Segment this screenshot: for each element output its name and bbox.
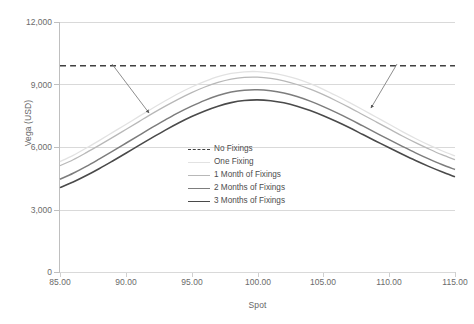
x-axis-title: Spot — [60, 300, 455, 310]
y-tick-label: 3,000 — [6, 205, 52, 215]
legend-swatch-dashed-icon — [188, 144, 210, 154]
legend-swatch-line-icon — [188, 183, 210, 193]
legend-item-1-month[interactable]: 1 Month of Fixings — [188, 168, 318, 181]
gridline — [60, 272, 455, 273]
legend-item-no-fixings[interactable]: No Fixings — [188, 142, 318, 155]
x-tick-label: 95.00 — [162, 277, 222, 287]
y-tick-label: 0 — [6, 267, 52, 277]
x-tick-label: 115.00 — [425, 277, 474, 287]
x-tick-label: 110.00 — [359, 277, 419, 287]
legend-label: One Fixing — [214, 156, 254, 167]
legend-item-2-months[interactable]: 2 Months of Fixings — [188, 181, 318, 194]
legend-label: 1 Month of Fixings — [214, 169, 281, 180]
legend-label: 2 Months of Fixings — [214, 182, 285, 193]
legend-swatch-line-icon — [188, 196, 210, 206]
y-axis-title: Vega (USD) — [23, 53, 33, 193]
vega-spot-chart: 12,000 9,000 6,000 3,000 0 Vega (USD) Sp… — [0, 0, 474, 324]
legend-item-one-fixing[interactable]: One Fixing — [188, 155, 318, 168]
legend-swatch-line-icon — [188, 170, 210, 180]
legend-swatch-line-icon — [188, 157, 210, 167]
legend-label: No Fixings — [214, 143, 253, 154]
chart-legend: No Fixings One Fixing 1 Month of Fixings… — [188, 142, 318, 207]
x-tick-mark — [455, 272, 456, 277]
x-tick-label: 90.00 — [96, 277, 156, 287]
x-tick-label: 85.00 — [30, 277, 90, 287]
y-tick-label: 12,000 — [6, 17, 52, 27]
legend-label: 3 Months of Fixings — [214, 195, 285, 206]
legend-item-3-months[interactable]: 3 Months of Fixings — [188, 194, 318, 207]
x-tick-label: 105.00 — [293, 277, 353, 287]
x-tick-label: 100.00 — [228, 277, 288, 287]
